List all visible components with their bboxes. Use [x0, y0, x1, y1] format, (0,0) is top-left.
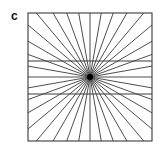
hering-illusion-figure — [0, 0, 162, 145]
center-point — [87, 74, 93, 80]
